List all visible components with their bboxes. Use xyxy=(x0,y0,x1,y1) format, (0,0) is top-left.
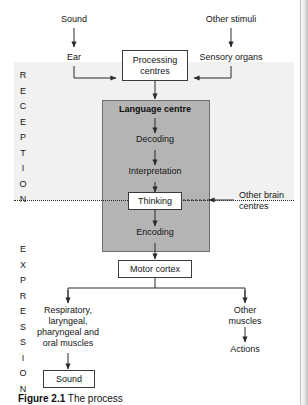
reception-letter: E xyxy=(16,84,30,100)
reception-letter: R xyxy=(16,68,30,84)
expression-letter: R xyxy=(16,289,30,305)
label-interpretation: Interpretation xyxy=(110,166,200,177)
reception-letter: T xyxy=(16,146,30,162)
label-decoding: Decoding xyxy=(110,134,200,145)
figure-caption: Figure 2.1 The process xyxy=(18,393,288,405)
box-sound-output: Sound xyxy=(43,370,95,388)
expression-letter: E xyxy=(16,304,30,320)
reception-letter: P xyxy=(16,130,30,146)
label-actions: Actions xyxy=(210,344,280,355)
expression-letter: S xyxy=(16,320,30,336)
expression-letter: E xyxy=(16,242,30,258)
label-speech-muscles: Respiratory, laryngeal, pharyngeal and o… xyxy=(18,305,118,349)
expression-letter: P xyxy=(16,273,30,289)
figure-caption-label: Figure 2.1 xyxy=(18,393,65,404)
label-encoding: Encoding xyxy=(110,227,200,238)
label-other-stimuli: Other stimuli xyxy=(193,14,269,25)
figure-diagram: Sound Ear Other stimuli Sensory organs P… xyxy=(0,0,308,405)
figure-caption-text: The process xyxy=(65,393,123,404)
reception-letter: I xyxy=(16,161,30,177)
expression-letter: X xyxy=(16,258,30,274)
expression-letter: I xyxy=(16,351,30,367)
label-language-centre: Language centre xyxy=(102,104,208,114)
reception-letter: E xyxy=(16,115,30,131)
box-motor-cortex: Motor cortex xyxy=(118,260,192,278)
section-label-reception: R E C E P T I O N xyxy=(16,68,30,208)
expression-letter: O xyxy=(16,366,30,382)
box-thinking: Thinking xyxy=(128,192,182,210)
label-other-muscles: Other muscles xyxy=(210,305,280,327)
label-ear: Ear xyxy=(44,52,104,63)
reception-letter: O xyxy=(16,177,30,193)
label-other-brain-centres: Other brain centres xyxy=(239,190,305,212)
expression-letter: S xyxy=(16,335,30,351)
reception-letter: C xyxy=(16,99,30,115)
section-label-expression: E X P R E S S I O N xyxy=(16,242,30,397)
box-processing-centres: Processing centres xyxy=(122,50,188,81)
label-sensory-organs: Sensory organs xyxy=(189,52,273,63)
label-sound-input: Sound xyxy=(44,14,104,25)
reception-letter: N xyxy=(16,192,30,208)
